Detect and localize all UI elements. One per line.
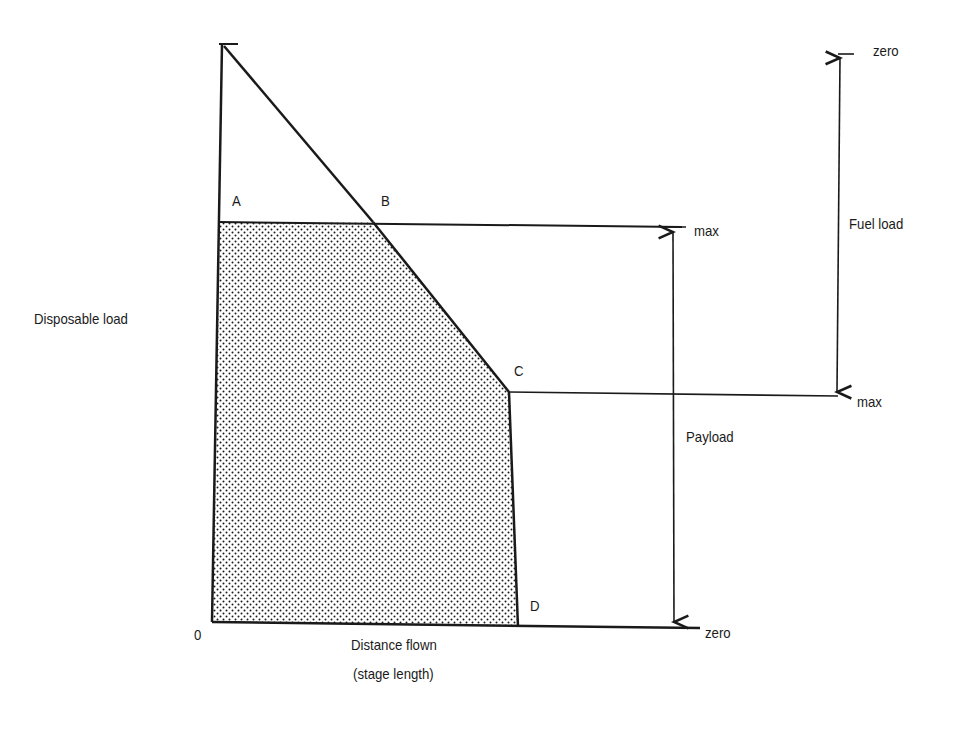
payload-zero-label: zero	[705, 624, 731, 641]
fuel-max-label: max	[857, 393, 882, 410]
payload-range-diagram	[0, 0, 958, 738]
fuel-arrow	[837, 58, 840, 392]
x-axis-sublabel: (stage length)	[353, 665, 434, 682]
payload-arrow	[673, 232, 674, 622]
fuel-zero-label: zero	[873, 42, 899, 59]
payload-max-label: max	[694, 222, 719, 239]
x-axis-label: Distance flown	[351, 636, 437, 653]
y-axis-label: Disposable load	[34, 310, 128, 327]
payload-label: Payload	[686, 428, 734, 445]
fuel-load-label: Fuel load	[849, 215, 903, 232]
origin-label: 0	[194, 626, 201, 643]
max-takeoff-weight-line	[224, 46, 373, 222]
point-label-d: D	[530, 597, 540, 614]
point-label-a: A	[232, 192, 241, 209]
payload-region	[212, 222, 518, 627]
point-label-c: C	[514, 362, 524, 379]
point-label-b: B	[381, 192, 390, 209]
